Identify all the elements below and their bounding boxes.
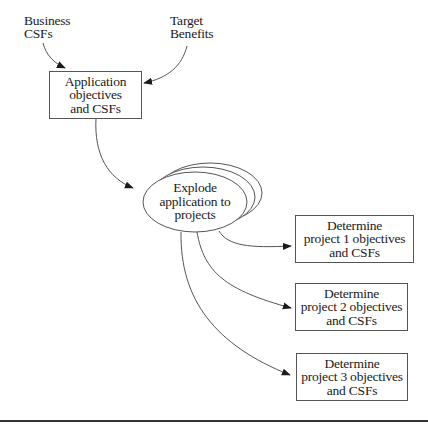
project-3-box: Determine project 3 objectives and CSFs — [296, 353, 408, 401]
project-3-line-3: and CSFs — [327, 384, 378, 398]
edge-target-to-application — [144, 46, 187, 83]
application-box-line-1: Application — [65, 75, 127, 89]
input-business-csfs: Business CSFs — [24, 14, 70, 40]
bottom-divider — [0, 420, 428, 422]
application-box-line-3: and CSFs — [70, 102, 121, 116]
edge-explode-to-project-3 — [181, 232, 290, 375]
explode-line-3: projects — [145, 208, 245, 222]
project-3-line-2: project 3 objectives — [301, 370, 403, 384]
business-csfs-line-2: CSFs — [24, 27, 70, 40]
project-1-line-2: project 1 objectives — [304, 232, 406, 246]
project-3-line-1: Determine — [324, 357, 379, 371]
edge-explode-to-project-2 — [197, 232, 291, 308]
project-1-line-3: and CSFs — [329, 246, 380, 260]
project-1-line-1: Determine — [327, 219, 382, 233]
project-2-line-3: and CSFs — [326, 314, 377, 328]
application-box-line-2: objectives — [69, 88, 122, 102]
project-2-line-2: project 2 objectives — [301, 300, 403, 314]
edge-application-to-explode — [96, 118, 133, 188]
explode-ellipse: Explode application to projects — [145, 181, 245, 222]
application-objectives-box: Application objectives and CSFs — [49, 71, 142, 119]
edge-business-to-application — [43, 43, 65, 68]
project-2-box: Determine project 2 objectives and CSFs — [295, 283, 408, 331]
explode-line-2: application to — [145, 195, 245, 209]
target-benefits-line-2: Benefits — [170, 27, 213, 40]
explode-line-1: Explode — [145, 181, 245, 195]
project-1-box: Determine project 1 objectives and CSFs — [295, 215, 414, 263]
project-2-line-1: Determine — [324, 287, 379, 301]
input-target-benefits: Target Benefits — [170, 14, 213, 40]
edge-explode-to-project-1 — [219, 231, 291, 247]
